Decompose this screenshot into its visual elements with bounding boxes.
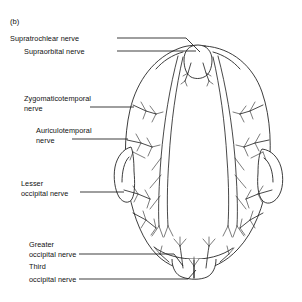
head-nerve-diagram: (b) Supratrochlear nerve Supraorbital ne… <box>0 0 302 302</box>
forehead-contour-right <box>213 52 240 69</box>
cranium-outline <box>125 45 270 270</box>
right-ear-outline <box>258 149 283 203</box>
head-outline-group <box>114 45 282 279</box>
label-greater-occipital-nerve-line2: occipital nerve <box>29 250 76 259</box>
zygomaticotemporal-nerve-right <box>233 102 263 122</box>
label-third-occipital-nerve-line1: Third <box>29 262 46 271</box>
label-auriculotemporal-nerve-line1: Auriculotemporal <box>36 126 92 135</box>
label-lesser-occipital-nerve-line1: Lesser <box>21 179 44 188</box>
label-auriculotemporal-nerve-line2: nerve <box>36 136 55 145</box>
label-third-occipital-nerve-line2: occipital nerve <box>29 275 76 284</box>
label-zygomaticotemporal-nerve-line1: Zygomaticotemporal <box>24 94 91 103</box>
leader-lines-group <box>72 38 200 279</box>
label-supratrochlear-nerve: Supratrochlear nerve <box>10 34 79 43</box>
nerve-distribution-figure: (b) Supratrochlear nerve Supraorbital ne… <box>0 0 302 302</box>
occiput-contour <box>154 247 233 259</box>
panel-label: (b) <box>10 17 20 26</box>
label-greater-occipital-nerve-line1: Greater <box>29 240 55 249</box>
forehead-contour-left <box>156 52 183 69</box>
label-lesser-occipital-nerve-line2: occipital nerve <box>21 189 68 198</box>
zygomaticotemporal-nerve-left <box>133 102 163 122</box>
label-zygomaticotemporal-nerve-line2: nerve <box>24 104 43 113</box>
leader-greater-occipital <box>79 254 183 266</box>
label-supraorbital-nerve: Supraorbital nerve <box>24 47 85 56</box>
